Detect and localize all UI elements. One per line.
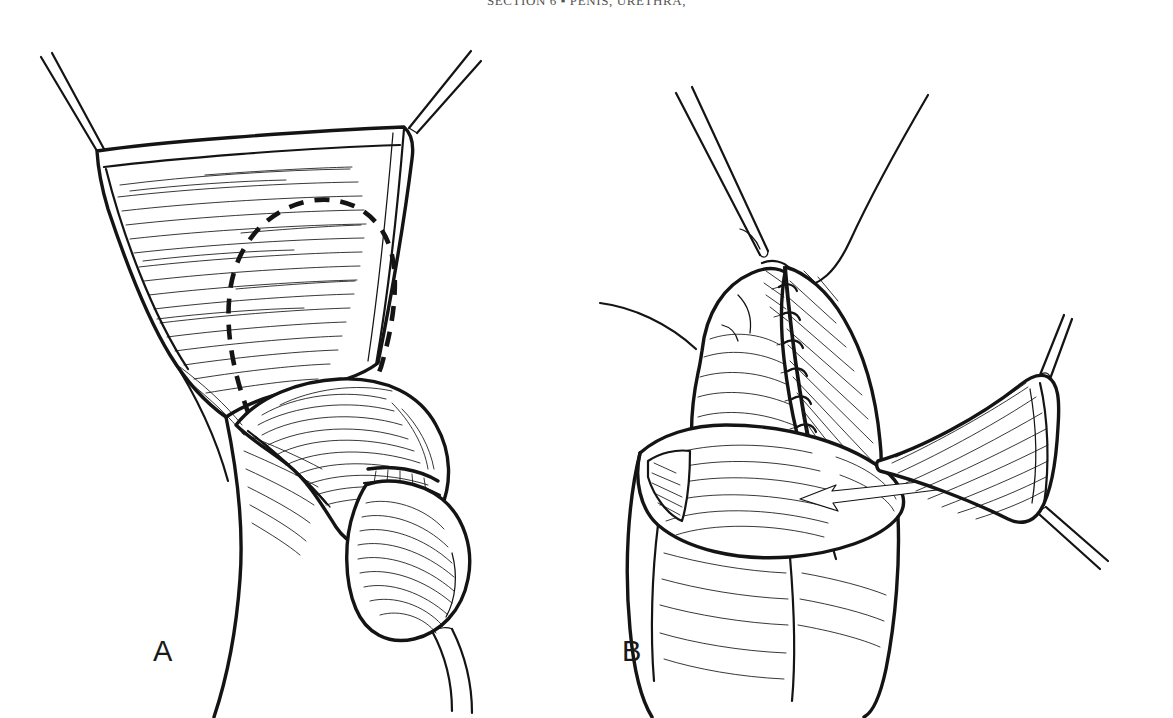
suture-thread-b-left — [600, 303, 696, 349]
panel-a-illustration — [41, 51, 481, 717]
running-head: SECTION 6 ▪ PENIS, URETHRA, — [0, 0, 1173, 9]
forceps-b — [676, 87, 768, 257]
panel-label-b: B — [622, 637, 641, 666]
figure-artwork — [0, 33, 1173, 718]
glans-a — [347, 481, 470, 640]
panel-b-illustration — [600, 87, 1108, 717]
panel-label-a: A — [153, 637, 172, 666]
traction-suture-flap-tip-lower — [1039, 507, 1108, 569]
suture-thread-b — [798, 95, 928, 287]
header-rule — [0, 26, 1173, 33]
retracted-skin-outline — [97, 127, 413, 417]
traction-suture-flap-tip-upper — [1040, 315, 1072, 379]
traction-suture-upper-left — [41, 53, 104, 151]
catheter-a — [432, 628, 472, 713]
figure-page: SECTION 6 ▪ PENIS, URETHRA, — [0, 0, 1173, 718]
traction-suture-upper-right — [409, 51, 481, 133]
